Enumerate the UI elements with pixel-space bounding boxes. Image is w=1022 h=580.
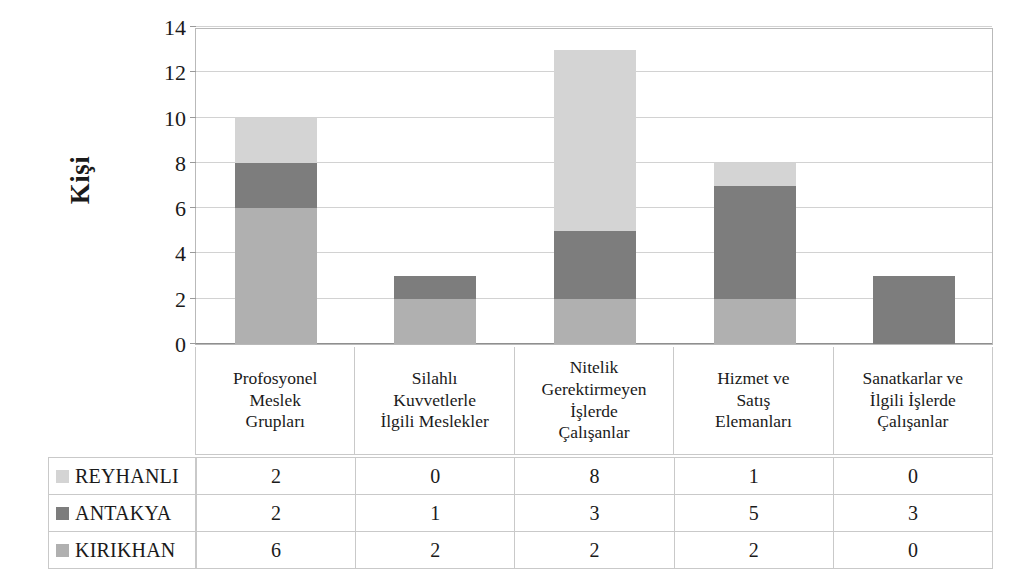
- table-cell-r1-c5: 0: [833, 458, 992, 494]
- table-cell-r3-c3: 2: [514, 532, 673, 568]
- category-line: Hizmet ve: [715, 368, 792, 390]
- bar-column-5: [873, 276, 955, 344]
- y-axis-tick-labels: 02468101214: [130, 0, 186, 360]
- y-tick-8: 8: [175, 153, 186, 175]
- category-line: Elemanları: [715, 411, 792, 433]
- category-axis-labels: ProfosyonelMeslekGruplarıSilahlıKuvvetle…: [195, 347, 993, 455]
- category-line: Grupları: [233, 411, 318, 433]
- table-row: REYHANLI20810: [49, 458, 992, 494]
- bar-segment-reyhanli-3: [554, 50, 636, 231]
- category-cell-1: ProfosyonelMeslekGrupları: [196, 347, 354, 454]
- table-cell-r1-c1: 2: [196, 458, 355, 494]
- bar-column-2: [394, 276, 476, 344]
- legend-label: ANTAKYA: [75, 502, 171, 525]
- chart-data-table: REYHANLI20810ANTAKYA21353KIRIKHAN62220: [48, 457, 993, 569]
- category-line: Profosyonel: [233, 368, 318, 390]
- legend-swatch-reyhanli-icon: [56, 470, 69, 483]
- y-tickmark-2: [190, 298, 196, 299]
- table-cell-r3-c1: 6: [196, 532, 355, 568]
- bar-segment-antakya-2: [394, 276, 476, 299]
- table-cell-r3-c2: 2: [355, 532, 514, 568]
- y-tickmark-14: [190, 26, 196, 27]
- category-cell-4: Hizmet veSatışElemanları: [673, 347, 832, 454]
- bar-segment-kirikhan-3: [554, 299, 636, 344]
- y-tick-6: 6: [175, 198, 186, 220]
- legend-label: REYHANLI: [75, 465, 179, 488]
- table-cell-r2-c1: 2: [196, 495, 355, 531]
- table-cell-r2-c3: 3: [514, 495, 673, 531]
- table-cell-r2-c4: 5: [674, 495, 833, 531]
- bar-segment-reyhanli-1: [235, 118, 317, 163]
- legend-entry-reyhanli[interactable]: REYHANLI: [49, 458, 196, 494]
- table-cell-r3-c5: 0: [833, 532, 992, 568]
- category-line: İlgili Meslekler: [380, 411, 488, 433]
- category-line: Sanatkarlar ve: [863, 368, 964, 390]
- y-tick-4: 4: [175, 243, 186, 265]
- table-cell-r1-c4: 1: [674, 458, 833, 494]
- category-line: Satış: [715, 390, 792, 412]
- legend-swatch-antakya-icon: [56, 507, 69, 520]
- bar-segment-reyhanli-4: [714, 163, 796, 186]
- y-tickmark-12: [190, 71, 196, 72]
- category-line: Nitelik: [542, 357, 647, 379]
- y-axis-title: Kişi: [50, 120, 110, 240]
- bar-column-1: [235, 118, 317, 344]
- bar-column-4: [714, 163, 796, 344]
- y-tickmark-8: [190, 162, 196, 163]
- legend-entry-kirikhan[interactable]: KIRIKHAN: [49, 532, 196, 568]
- table-row: ANTAKYA21353: [49, 494, 992, 531]
- table-cell-r1-c3: 8: [514, 458, 673, 494]
- category-line: İşlerde: [542, 401, 647, 423]
- plot-area: [195, 28, 993, 345]
- table-cell-r2-c5: 3: [833, 495, 992, 531]
- table-row: KIRIKHAN62220: [49, 531, 992, 568]
- bar-segment-antakya-5: [873, 276, 955, 344]
- legend-label: KIRIKHAN: [75, 539, 175, 562]
- bar-column-3: [554, 50, 636, 344]
- bar-segment-antakya-1: [235, 163, 317, 208]
- y-tickmark-4: [190, 252, 196, 253]
- y-tickmark-10: [190, 117, 196, 118]
- category-line: Gerektirmeyen: [542, 379, 647, 401]
- y-tick-0: 0: [175, 334, 186, 356]
- bar-segment-kirikhan-4: [714, 299, 796, 344]
- y-tick-14: 14: [164, 17, 186, 39]
- y-tick-12: 12: [164, 62, 186, 84]
- category-line: Kuvvetlerle: [380, 390, 488, 412]
- y-tickmark-0: [190, 343, 196, 344]
- y-tick-10: 10: [164, 108, 186, 130]
- category-line: Çalışanlar: [542, 422, 647, 444]
- bar-segment-antakya-3: [554, 231, 636, 299]
- category-line: Meslek: [233, 390, 318, 412]
- table-cell-r3-c4: 2: [674, 532, 833, 568]
- gridline-14: [196, 26, 992, 27]
- bar-segment-kirikhan-1: [235, 208, 317, 344]
- category-line: Silahlı: [380, 368, 488, 390]
- bar-segment-kirikhan-2: [394, 299, 476, 344]
- category-line: Çalışanlar: [863, 411, 964, 433]
- legend-swatch-kirikhan-icon: [56, 544, 69, 557]
- y-tickmark-6: [190, 207, 196, 208]
- table-cell-r2-c2: 1: [355, 495, 514, 531]
- legend-entry-antakya[interactable]: ANTAKYA: [49, 495, 196, 531]
- category-cell-5: Sanatkarlar veİlgili İşlerdeÇalışanlar: [833, 347, 992, 454]
- category-cell-3: NitelikGerektirmeyenİşlerdeÇalışanlar: [514, 347, 673, 454]
- chart-figure: Kişi 02468101214 ProfosyonelMeslekGrupla…: [0, 0, 1022, 580]
- table-cell-r1-c2: 0: [355, 458, 514, 494]
- category-cell-2: SilahlıKuvvetlerleİlgili Meslekler: [354, 347, 513, 454]
- y-tick-2: 2: [175, 289, 186, 311]
- category-line: İlgili İşlerde: [863, 390, 964, 412]
- bar-segment-antakya-4: [714, 186, 796, 299]
